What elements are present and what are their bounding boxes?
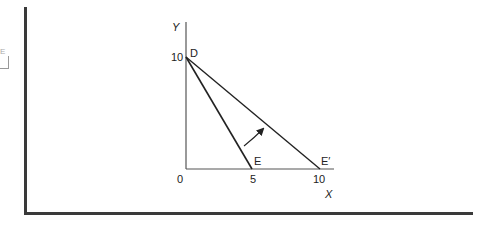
x-axis-label: X	[324, 188, 333, 200]
point-label-E-prime: E′	[321, 155, 330, 167]
y-axis-label: Y	[172, 21, 180, 33]
x-tick-5: 5	[250, 173, 256, 185]
rotation-arrow-icon	[244, 129, 263, 146]
point-label-D: D	[190, 47, 198, 59]
origin-label: 0	[177, 173, 183, 185]
y-tick-10: 10	[171, 51, 183, 63]
line-DE-prime	[186, 57, 320, 169]
line-DE	[186, 57, 252, 169]
x-tick-10: 10	[313, 173, 325, 185]
budget-line-diagram: Y 10 D 0 5 10 E E′ X	[0, 0, 486, 227]
point-label-E: E	[254, 155, 261, 167]
